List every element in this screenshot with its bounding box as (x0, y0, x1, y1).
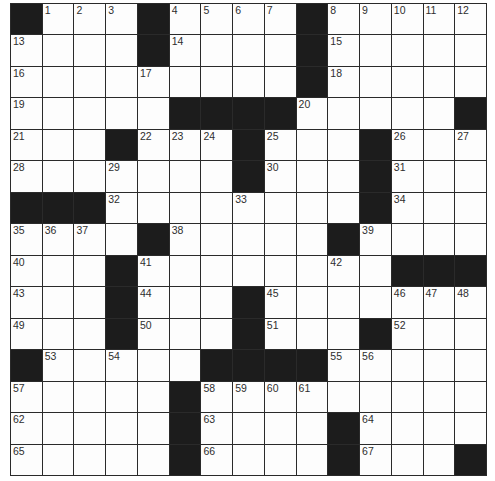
answer-square[interactable] (265, 256, 296, 286)
answer-square[interactable] (424, 130, 455, 160)
answer-square[interactable]: 9 (360, 4, 391, 34)
answer-square[interactable]: 65 (11, 445, 42, 475)
answer-square[interactable]: 40 (11, 256, 42, 286)
answer-square[interactable]: 2 (74, 4, 105, 34)
answer-square[interactable]: 14 (170, 35, 201, 65)
answer-square[interactable] (328, 130, 359, 160)
answer-square[interactable] (297, 161, 328, 191)
answer-square[interactable] (455, 193, 486, 223)
answer-square[interactable]: 44 (138, 287, 169, 317)
answer-square[interactable]: 51 (265, 319, 296, 349)
answer-square[interactable]: 43 (11, 287, 42, 317)
answer-square[interactable] (43, 382, 74, 412)
answer-square[interactable] (74, 161, 105, 191)
answer-square[interactable] (297, 413, 328, 443)
answer-square[interactable] (138, 413, 169, 443)
answer-square[interactable] (43, 35, 74, 65)
answer-square[interactable]: 25 (265, 130, 296, 160)
answer-square[interactable] (138, 382, 169, 412)
answer-square[interactable]: 7 (265, 4, 296, 34)
answer-square[interactable] (138, 350, 169, 380)
answer-square[interactable] (170, 67, 201, 97)
answer-square[interactable] (265, 35, 296, 65)
answer-square[interactable]: 50 (138, 319, 169, 349)
answer-square[interactable] (360, 35, 391, 65)
answer-square[interactable] (138, 445, 169, 475)
answer-square[interactable] (424, 224, 455, 254)
answer-square[interactable] (392, 350, 423, 380)
answer-square[interactable]: 28 (11, 161, 42, 191)
answer-square[interactable] (43, 319, 74, 349)
answer-square[interactable] (74, 98, 105, 128)
answer-square[interactable] (170, 256, 201, 286)
answer-square[interactable] (424, 382, 455, 412)
answer-square[interactable]: 66 (201, 445, 232, 475)
answer-square[interactable] (43, 67, 74, 97)
answer-square[interactable] (392, 35, 423, 65)
answer-square[interactable] (297, 445, 328, 475)
answer-square[interactable] (424, 193, 455, 223)
answer-square[interactable] (424, 319, 455, 349)
answer-square[interactable]: 52 (392, 319, 423, 349)
answer-square[interactable]: 24 (201, 130, 232, 160)
answer-square[interactable] (201, 161, 232, 191)
answer-square[interactable] (455, 413, 486, 443)
answer-square[interactable] (233, 413, 264, 443)
answer-square[interactable] (424, 161, 455, 191)
answer-square[interactable]: 21 (11, 130, 42, 160)
answer-square[interactable] (328, 98, 359, 128)
answer-square[interactable] (43, 413, 74, 443)
answer-square[interactable]: 55 (328, 350, 359, 380)
answer-square[interactable] (328, 193, 359, 223)
answer-square[interactable] (360, 382, 391, 412)
answer-square[interactable] (328, 287, 359, 317)
answer-square[interactable] (74, 256, 105, 286)
answer-square[interactable] (360, 256, 391, 286)
answer-square[interactable] (43, 256, 74, 286)
answer-square[interactable] (74, 382, 105, 412)
answer-square[interactable] (201, 193, 232, 223)
answer-square[interactable] (297, 224, 328, 254)
answer-square[interactable]: 56 (360, 350, 391, 380)
answer-square[interactable] (201, 287, 232, 317)
answer-square[interactable] (455, 224, 486, 254)
answer-square[interactable]: 32 (106, 193, 137, 223)
answer-square[interactable] (201, 256, 232, 286)
answer-square[interactable] (170, 319, 201, 349)
answer-square[interactable] (297, 193, 328, 223)
answer-square[interactable] (392, 382, 423, 412)
answer-square[interactable] (138, 193, 169, 223)
answer-square[interactable]: 26 (392, 130, 423, 160)
answer-square[interactable] (392, 224, 423, 254)
answer-square[interactable] (297, 130, 328, 160)
answer-square[interactable] (360, 287, 391, 317)
answer-square[interactable] (455, 319, 486, 349)
answer-square[interactable]: 62 (11, 413, 42, 443)
answer-square[interactable]: 10 (392, 4, 423, 34)
answer-square[interactable] (233, 35, 264, 65)
answer-square[interactable]: 36 (43, 224, 74, 254)
answer-square[interactable]: 6 (233, 4, 264, 34)
answer-square[interactable]: 16 (11, 67, 42, 97)
answer-square[interactable] (201, 224, 232, 254)
answer-square[interactable]: 67 (360, 445, 391, 475)
answer-square[interactable] (74, 35, 105, 65)
answer-square[interactable] (328, 382, 359, 412)
answer-square[interactable]: 8 (328, 4, 359, 34)
answer-square[interactable] (233, 224, 264, 254)
answer-square[interactable] (138, 161, 169, 191)
answer-square[interactable] (328, 161, 359, 191)
answer-square[interactable] (170, 287, 201, 317)
answer-square[interactable] (360, 98, 391, 128)
answer-square[interactable] (170, 161, 201, 191)
answer-square[interactable] (424, 445, 455, 475)
answer-square[interactable] (360, 67, 391, 97)
answer-square[interactable]: 3 (106, 4, 137, 34)
answer-square[interactable] (74, 67, 105, 97)
answer-square[interactable] (106, 382, 137, 412)
answer-square[interactable] (43, 287, 74, 317)
answer-square[interactable]: 53 (43, 350, 74, 380)
answer-square[interactable] (297, 319, 328, 349)
answer-square[interactable]: 20 (297, 98, 328, 128)
answer-square[interactable]: 37 (74, 224, 105, 254)
